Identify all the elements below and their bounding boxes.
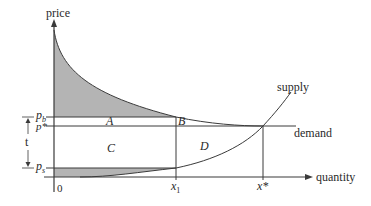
region-a-label: A [105, 114, 114, 128]
tax-arrow-up-icon [26, 118, 31, 123]
origin-label: 0 [57, 182, 63, 194]
x-axis-arrow-icon [305, 174, 313, 180]
equilibrium-price-label: p* [35, 120, 48, 132]
supply-label: supply [277, 80, 309, 94]
seller-price-label: ps [35, 159, 45, 175]
x-axis-label: quantity [316, 170, 355, 184]
tax-incidence-diagram: price quantity pb p* ps t 0 x1 x* supply… [0, 0, 371, 206]
region-b-label: B [178, 114, 186, 128]
y-axis-arrow-icon [51, 19, 57, 27]
consumer-surplus-shaded-area [54, 30, 176, 117]
xstar-label: x* [256, 179, 268, 193]
x1-label: x1 [170, 179, 180, 195]
region-d-label: D [199, 139, 209, 153]
demand-label: demand [294, 126, 332, 140]
y-axis-label: price [46, 6, 70, 20]
region-c-label: C [107, 141, 116, 155]
tax-arrow-down-icon [26, 162, 31, 167]
tax-label: t [25, 135, 29, 149]
producer-surplus-shaded-area [54, 168, 176, 177]
